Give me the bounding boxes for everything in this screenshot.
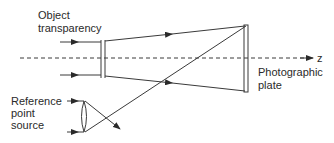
reference-source-label-line1: Reference xyxy=(11,95,62,107)
object-transparency-label-line2: transparency xyxy=(38,22,102,34)
reference-beam xyxy=(85,26,246,132)
photographic-plate-label-line1: Photographic xyxy=(258,66,323,78)
reference-source-label-line2: point xyxy=(11,107,35,119)
object-transparency-label-line1: Object xyxy=(38,9,70,21)
reference-source-label-line3: source xyxy=(11,119,44,131)
reference-lens xyxy=(82,101,87,132)
object-transparency xyxy=(101,40,105,78)
object-input-rays xyxy=(60,42,101,75)
z-axis-label: z xyxy=(317,52,323,64)
photographic-plate-label-line2: plate xyxy=(258,79,282,91)
